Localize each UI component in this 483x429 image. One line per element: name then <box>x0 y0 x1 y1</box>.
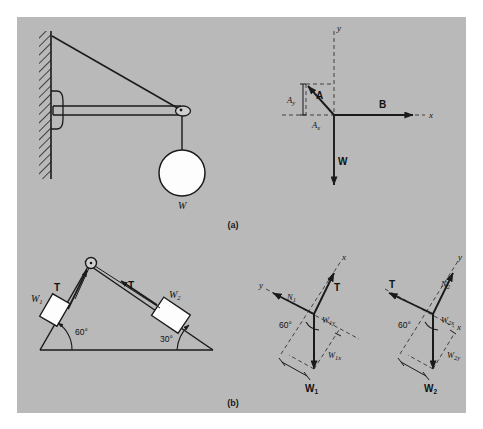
vector-diagram-group: y x A B W Ay Ax <box>282 23 433 185</box>
fbd1-normal-label: N1 <box>286 292 296 303</box>
fbd2-y-axis-label: y <box>457 252 462 262</box>
fbd1-weight-label: W1 <box>305 383 318 395</box>
double-incline-group: T W1 T W2 60° 30° <box>31 258 213 351</box>
fbd1-comp-lower-label: W1x <box>328 350 341 361</box>
wall-hatching <box>39 31 51 179</box>
angle-30-label: 30° <box>160 334 173 344</box>
fbd1-tension-label: T <box>334 282 340 293</box>
fbd1-angle-arc <box>306 322 319 330</box>
fbd2-x-axis-label: x <box>456 322 461 332</box>
wall-bracket-group: W <box>39 31 205 211</box>
vector-W-label: W <box>338 156 348 167</box>
bracket-weight-label: W <box>178 200 188 211</box>
fbd2-comp-tick-b <box>423 372 429 380</box>
rope-left <box>75 268 89 299</box>
fbd2-weight-label: W2 <box>424 383 437 395</box>
fbd2-y-axis <box>400 261 458 354</box>
vector-A-label: A <box>316 90 323 101</box>
incline-right-face <box>89 265 213 350</box>
fbd1-tension-arrow <box>314 273 334 314</box>
fbd-w2-group: y x N2 T W2 60° W2x W2y <box>385 252 462 395</box>
fbd1-comp-guide-1 <box>314 330 339 369</box>
component-Ay-label: Ay <box>286 95 295 106</box>
vd-x-axis-label: x <box>428 110 433 120</box>
joint-pin <box>180 109 183 112</box>
fbd1-comp-tick-c <box>335 333 341 336</box>
fbd1-comp-tick-b <box>304 372 310 380</box>
arm-joint <box>176 106 191 116</box>
block-w1 <box>40 294 70 327</box>
tension-right-arrow <box>121 281 157 305</box>
fbd1-comp-upper-label: W1y <box>322 315 335 326</box>
figure-panel: W y x A B W Ay Ax (a) <box>17 17 466 413</box>
fbd2-angle-label: 60° <box>398 320 411 330</box>
fbd2-angle-arc <box>425 322 438 330</box>
figure-svg: W y x A B W Ay Ax (a) <box>17 17 466 413</box>
fbd1-comp-guide-2 <box>289 355 314 369</box>
block-w1-label: W1 <box>31 293 43 305</box>
fbd2-tension-label: T <box>389 279 395 290</box>
fbd2-comp-guide-2 <box>408 355 433 369</box>
tension-right-label: T <box>128 280 134 291</box>
tension-left-arrow <box>68 270 87 309</box>
fbd1-comp-tick-a <box>279 358 285 366</box>
hanging-ball <box>159 150 205 196</box>
pulley-axle <box>90 262 93 265</box>
caption-b: (b) <box>227 398 239 408</box>
component-Ax-label: Ax <box>311 120 320 131</box>
tension-left-label: T <box>54 282 60 293</box>
diagonal-brace <box>52 36 181 110</box>
vd-y-axis-label: y <box>336 23 341 33</box>
fbd2-comp-bar <box>401 362 426 376</box>
fbd1-y-axis-label: y <box>258 280 263 290</box>
fbd1-comp-bar <box>282 362 307 376</box>
angle-60-label: 60° <box>75 327 88 337</box>
fbd2-comp-tick-c <box>450 330 456 334</box>
fbd-w1-group: x y N1 T W1 60° W1y W1x <box>258 252 359 395</box>
caption-a: (a) <box>228 220 239 230</box>
fbd2-comp-tick-a <box>398 358 404 366</box>
fbd1-angle-label: 60° <box>279 320 292 330</box>
fbd2-comp-lower-label: W2y <box>447 350 460 361</box>
vector-B-label: B <box>379 99 386 110</box>
angle-60-arc <box>58 323 72 350</box>
block-w2-label: W2 <box>169 289 181 301</box>
fbd2-tension-arrow <box>389 293 433 314</box>
fbd2-comp-upper-label: W2x <box>441 315 454 326</box>
fbd1-x-axis-label: x <box>341 252 346 262</box>
block-w2 <box>151 297 190 333</box>
